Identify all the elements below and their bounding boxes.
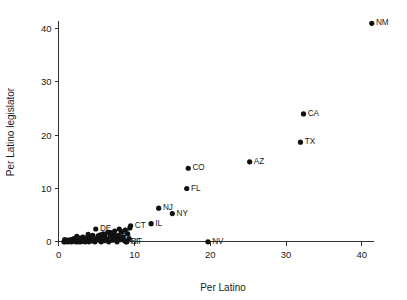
scatter-plot-figure: 010203040 010203040 NMCATXAZCOFLNJNYILCT…: [0, 0, 407, 300]
data-point: [127, 236, 132, 241]
data-point-label: CA: [308, 109, 320, 118]
data-point-label: CO: [192, 163, 204, 172]
data-point-label: IL: [155, 219, 162, 228]
data-point: [108, 230, 113, 235]
data-point: [62, 237, 67, 242]
data-point: [205, 239, 210, 244]
x-tick-label: 0: [56, 249, 61, 260]
data-point: [298, 140, 303, 145]
y-tick-label: 0: [46, 236, 51, 247]
x-tick-label: 30: [281, 249, 292, 260]
data-point-label: AZ: [254, 157, 264, 166]
data-points-group: NMCATXAZCOFLNJNYILCTNVDERIUTMAINKS: [61, 18, 389, 245]
data-point-label: TX: [305, 137, 316, 146]
data-point: [186, 166, 191, 171]
y-tick-label: 20: [41, 130, 52, 141]
data-point: [156, 206, 161, 211]
x-axis-title: Per Latino: [200, 282, 246, 293]
x-tick-label: 40: [357, 249, 368, 260]
data-point-label: NV: [212, 237, 224, 246]
data-point: [93, 226, 98, 231]
x-tick-label: 10: [129, 249, 140, 260]
data-point-label: NY: [177, 209, 189, 218]
data-point-label: CT: [135, 221, 146, 230]
data-point: [122, 238, 127, 243]
data-point: [369, 21, 374, 26]
y-tick-label: 40: [41, 23, 52, 34]
data-point: [87, 237, 92, 242]
data-point: [117, 226, 122, 231]
data-point-label: FL: [191, 184, 201, 193]
y-axis-group: 010203040: [41, 21, 59, 248]
data-point: [127, 225, 132, 230]
plot-canvas: 010203040 010203040 NMCATXAZCOFLNJNYILCT…: [0, 0, 407, 300]
data-point-label: UT: [131, 237, 142, 246]
data-point: [82, 238, 87, 243]
data-point: [247, 159, 252, 164]
x-tick-label: 20: [205, 249, 216, 260]
data-point: [301, 111, 306, 116]
data-point-label: NM: [376, 18, 389, 27]
y-axis-title: Per Latino legislator: [5, 87, 16, 176]
data-point: [184, 186, 189, 191]
y-tick-label: 30: [41, 76, 52, 87]
data-point: [70, 239, 75, 244]
data-point: [125, 231, 130, 236]
y-tick-label: 10: [41, 183, 52, 194]
data-point: [86, 232, 91, 237]
data-point: [170, 211, 175, 216]
data-point: [76, 239, 81, 244]
data-point: [148, 221, 153, 226]
data-point-label: NJ: [163, 203, 173, 212]
data-point: [98, 232, 103, 237]
